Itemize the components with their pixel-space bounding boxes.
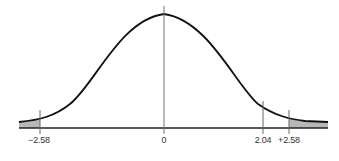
tick-label-pos-2-58: +2.58 bbox=[278, 135, 300, 145]
tick-label-zero: 0 bbox=[162, 135, 167, 145]
tick-label-2-04: 2.04 bbox=[255, 135, 272, 145]
normal-curve bbox=[19, 14, 328, 122]
normal-distribution-chart: −2.58 0 2.04 +2.58 bbox=[0, 0, 339, 161]
tick-label-neg-2-58: −2.58 bbox=[28, 135, 50, 145]
